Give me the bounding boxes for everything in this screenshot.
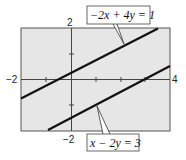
graph: −2 4 2 −2 −2x + 4y = 1 x − 2y = 3 [0,0,186,160]
y-max-label: 2 [67,17,73,28]
equation-label-1: −2x + 4y = 1 [90,8,155,22]
x-max-label: 4 [172,74,178,85]
equation-label-2: x − 2y = 3 [89,136,141,150]
y-min-label: −2 [63,134,75,145]
x-min-label: −2 [6,74,18,85]
